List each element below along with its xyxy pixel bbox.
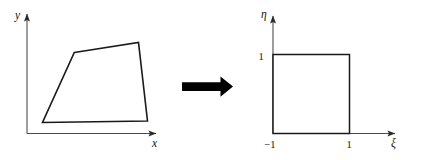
- arrow-glyph: [182, 77, 233, 97]
- quadrilateral-element: [43, 43, 148, 123]
- unit-square-element: [273, 55, 350, 134]
- xi-min-tick-label: −1: [264, 139, 275, 150]
- xi-max-tick-label: 1: [346, 139, 351, 150]
- parent-element-panel: η ξ 1 −1 1: [258, 8, 396, 150]
- maps-to-arrow: [182, 77, 233, 97]
- element-mapping-figure: y x η ξ 1 −1 1: [0, 0, 421, 160]
- eta-axis-label: η: [261, 8, 267, 21]
- xi-axis-label: ξ: [391, 137, 396, 150]
- y-axis-label: y: [14, 9, 21, 22]
- physical-element-panel: y x: [14, 9, 158, 149]
- eta-max-tick-label: 1: [258, 51, 263, 62]
- x-axis-label: x: [151, 137, 158, 149]
